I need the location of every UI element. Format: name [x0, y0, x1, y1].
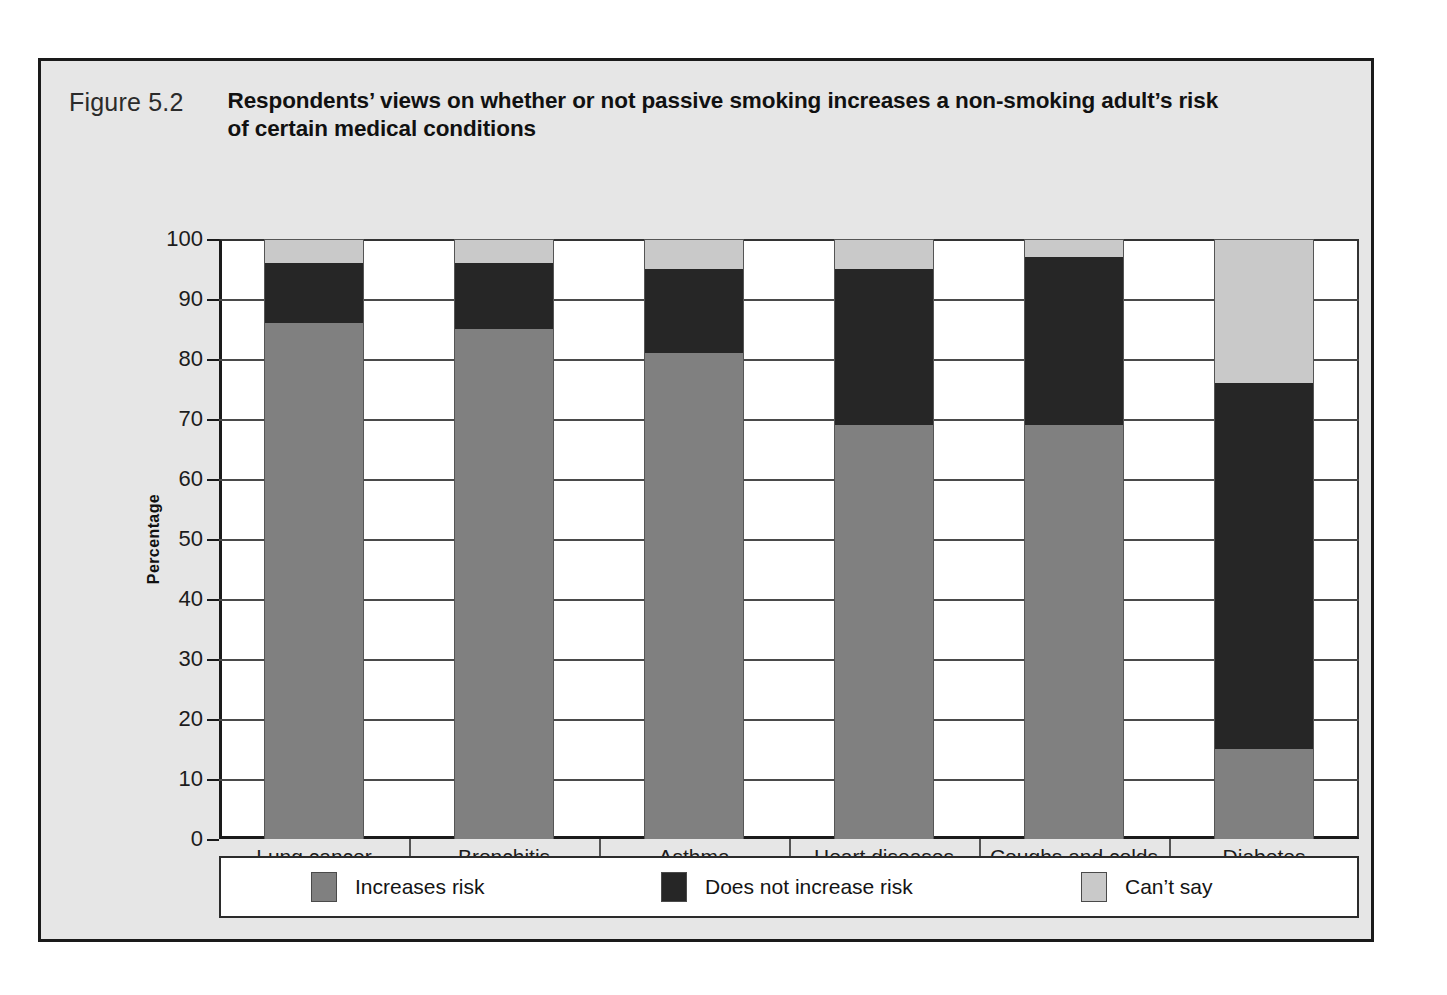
y-axis-tick-mark: [207, 239, 219, 241]
stacked-bar[interactable]: [1024, 239, 1124, 839]
bar-segment[interactable]: [1024, 239, 1124, 257]
bar-segment[interactable]: [834, 239, 934, 269]
stacked-bar[interactable]: [644, 239, 744, 839]
bar-segment[interactable]: [454, 263, 554, 329]
legend-item-label: Does not increase risk: [705, 875, 913, 899]
legend-item[interactable]: Increases risk: [311, 872, 485, 902]
figure-title: Respondents’ views on whether or not pas…: [228, 87, 1228, 144]
bar-segment[interactable]: [644, 269, 744, 353]
y-axis-tick-mark: [207, 659, 219, 661]
x-axis-tick-mark: [1169, 839, 1171, 856]
bar-column[interactable]: [1169, 239, 1359, 839]
bar-segment[interactable]: [264, 239, 364, 263]
y-axis-tick-label: 40: [133, 586, 203, 612]
y-axis-tick-mark: [207, 599, 219, 601]
figure-header: Figure 5.2 Respondents’ views on whether…: [69, 87, 1351, 144]
y-axis-tick-label: 30: [133, 646, 203, 672]
does-not-increase-risk-swatch: [661, 872, 687, 902]
y-axis-tick-label: 80: [133, 346, 203, 372]
bar-segment[interactable]: [1214, 383, 1314, 749]
y-axis-tick-label: 90: [133, 286, 203, 312]
bar-segment[interactable]: [264, 323, 364, 839]
bar-segment[interactable]: [644, 239, 744, 269]
bar-segment[interactable]: [1214, 239, 1314, 383]
bar-segment[interactable]: [1024, 425, 1124, 839]
bar-column[interactable]: [409, 239, 599, 839]
stacked-bar[interactable]: [454, 239, 554, 839]
bar-segment[interactable]: [1214, 749, 1314, 839]
figure-number: Figure 5.2: [69, 87, 184, 117]
x-axis-tick-mark: [789, 839, 791, 856]
bar-segment[interactable]: [644, 353, 744, 839]
bar-column[interactable]: [219, 239, 409, 839]
y-axis-tick-mark: [207, 839, 219, 841]
bar-column[interactable]: [789, 239, 979, 839]
y-axis-tick-label: 20: [133, 706, 203, 732]
stacked-bar[interactable]: [264, 239, 364, 839]
legend-item[interactable]: Can’t say: [1081, 872, 1213, 902]
y-axis-tick-mark: [207, 359, 219, 361]
figure-panel: Figure 5.2 Respondents’ views on whether…: [38, 58, 1374, 942]
bar-segment[interactable]: [264, 263, 364, 323]
bar-segment[interactable]: [454, 239, 554, 263]
bar-column[interactable]: [979, 239, 1169, 839]
y-axis-tick-label: 100: [133, 226, 203, 252]
chart-legend: Increases riskDoes not increase riskCan’…: [219, 856, 1359, 918]
bar-segment[interactable]: [1024, 257, 1124, 425]
bar-segment[interactable]: [834, 269, 934, 425]
y-axis-tick-mark: [207, 419, 219, 421]
bar-segment[interactable]: [454, 329, 554, 839]
y-axis-tick-label: 0: [133, 826, 203, 852]
x-axis-tick-mark: [409, 839, 411, 856]
y-axis-tick-label: 60: [133, 466, 203, 492]
increases-risk-swatch: [311, 872, 337, 902]
y-axis-tick-mark: [207, 479, 219, 481]
legend-item-label: Can’t say: [1125, 875, 1213, 899]
x-axis-tick-mark: [979, 839, 981, 856]
bar-segment[interactable]: [834, 425, 934, 839]
stacked-bar[interactable]: [1214, 239, 1314, 839]
y-axis-tick-label: 50: [133, 526, 203, 552]
y-axis-tick-mark: [207, 779, 219, 781]
cant-say-swatch: [1081, 872, 1107, 902]
bar-column[interactable]: [599, 239, 789, 839]
x-axis-tick-mark: [599, 839, 601, 856]
chart-plot-wrapper: Percentage 0102030405060708090100Lung ca…: [219, 239, 1359, 839]
y-axis-tick-mark: [207, 539, 219, 541]
y-axis-tick-mark: [207, 719, 219, 721]
legend-item[interactable]: Does not increase risk: [661, 872, 913, 902]
y-axis-tick-label: 10: [133, 766, 203, 792]
y-axis-tick-label: 70: [133, 406, 203, 432]
stacked-bar[interactable]: [834, 239, 934, 839]
legend-item-label: Increases risk: [355, 875, 485, 899]
y-axis-tick-mark: [207, 299, 219, 301]
